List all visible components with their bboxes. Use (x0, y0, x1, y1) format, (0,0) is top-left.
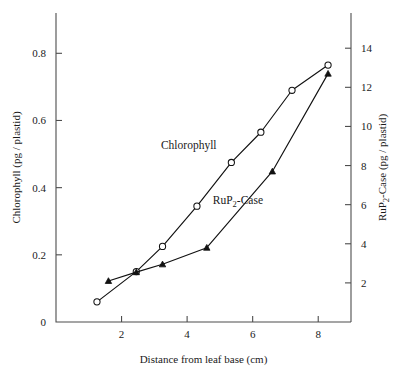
data-point-marker (159, 243, 165, 249)
y-tick-label: 0 (41, 316, 47, 328)
y2-tick-label: 4 (361, 238, 367, 250)
chart-figure: 00.20.40.60.824681012142468 ChlorophyllR… (0, 0, 401, 380)
series-layer (94, 62, 331, 305)
axes-layer (56, 13, 351, 322)
data-point-marker (228, 159, 234, 165)
data-point-marker (194, 203, 200, 209)
y-axis-title: Chlorophyll (pg / plastid) (10, 111, 23, 223)
x-tick-label: 6 (250, 328, 256, 340)
data-point-marker (258, 129, 264, 135)
data-point-marker (325, 70, 331, 76)
y2-tick-label: 6 (361, 199, 367, 211)
ticks-layer: 00.20.40.60.824681012142468 (32, 42, 372, 340)
left-bottom-axis (56, 13, 351, 322)
y2-tick-label: 8 (361, 160, 367, 172)
y2-tick-label: 2 (361, 277, 367, 289)
data-point-marker (325, 62, 331, 68)
series-line-1 (97, 65, 328, 302)
x-axis-title: Distance from leaf base (cm) (140, 353, 268, 366)
y-tick-label: 0.4 (32, 182, 46, 194)
series-line-2 (108, 74, 328, 281)
y-tick-label: 0.6 (32, 114, 46, 126)
y2-tick-label: 14 (361, 42, 373, 54)
y-tick-label: 0.2 (32, 249, 46, 261)
chart-plot-area: 00.20.40.60.824681012142468 ChlorophyllR… (0, 0, 401, 380)
y2-axis-title: RuP2-Case (pg / plastid) (376, 114, 391, 222)
data-point-marker (94, 299, 100, 305)
data-point-marker (289, 87, 295, 93)
data-point-marker (269, 168, 275, 174)
y-tick-label: 0.8 (32, 47, 46, 59)
y2-tick-label: 10 (361, 120, 373, 132)
series-annotation-chlorophyll: Chlorophyll (161, 139, 217, 152)
series-annotation-rup2case: RuP2-Case (213, 194, 263, 209)
x-tick-label: 8 (315, 328, 321, 340)
x-tick-label: 4 (184, 328, 190, 340)
labels-layer: ChlorophyllRuP2-CaseDistance from leaf b… (10, 111, 391, 366)
x-tick-label: 2 (119, 328, 125, 340)
y2-tick-label: 12 (361, 81, 372, 93)
